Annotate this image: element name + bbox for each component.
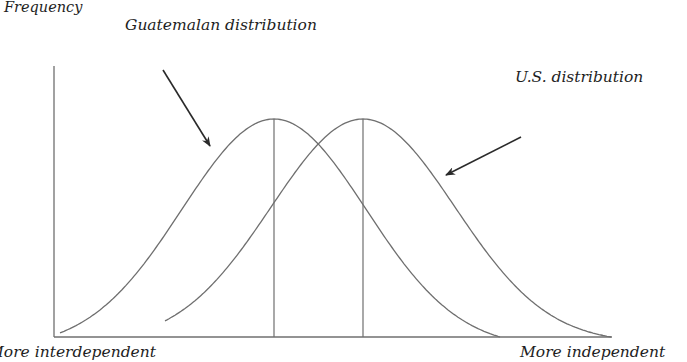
guatemalan-arrow-icon bbox=[163, 70, 210, 146]
us-arrow-icon bbox=[446, 137, 521, 175]
guatemalan-curve bbox=[60, 119, 500, 337]
us-curve bbox=[165, 119, 611, 337]
distribution-diagram bbox=[0, 0, 687, 362]
